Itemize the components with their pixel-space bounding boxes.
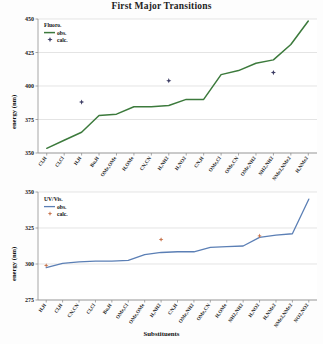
y-tick-label: 275 — [25, 297, 34, 303]
x-tick-label: OMe,CN — [195, 302, 211, 322]
x-tick-label: NO2,NO2 — [292, 302, 310, 324]
x-tick-label: OMe,Cl — [207, 155, 222, 173]
x-tick-label: Cl,Cl — [85, 302, 97, 315]
x-tick-label: Bu,H — [88, 155, 100, 168]
legend-item-calc: calc. — [57, 37, 68, 43]
x-tick-label: Cl,H — [53, 302, 64, 314]
x-tick-label: H,NH2 — [156, 155, 170, 171]
y-tick-label: 375 — [25, 117, 34, 123]
x-tick-label: CN,H — [192, 155, 204, 169]
x-tick-label: OMe,CN — [223, 155, 239, 175]
x-tick-label: H,NMe2 — [294, 155, 310, 174]
x-tick-label: H,H — [72, 155, 82, 166]
x-tick-label: H,OMe — [120, 155, 135, 172]
x-tick-label: OMe,OMe — [127, 302, 146, 325]
y-tick-label: 325 — [25, 225, 34, 231]
legend-item-calc: calc. — [57, 211, 68, 217]
x-tick-label: OMe,NH2 — [239, 155, 257, 177]
legend-title: UV/Vis. — [44, 196, 63, 202]
x-tick-label: H,NMe2 — [261, 302, 277, 321]
x-tick-label: H,OMe — [213, 302, 228, 319]
x-tick-label: NH2,NH2 — [257, 155, 275, 177]
x-tick-label: Bu,H — [101, 302, 113, 315]
y-tick-label: 425 — [25, 50, 34, 56]
chart-panel-fluorescence: energy (nm) 350375400425450Cl,HCl,ClH,HB… — [0, 14, 323, 189]
x-tick-label: OMe,OMe — [99, 155, 118, 178]
x-tick-label: NH2,NH2 — [227, 302, 245, 324]
y-tick-label: 350 — [25, 150, 34, 156]
x-tick-label: OMe,Cl — [114, 302, 129, 320]
y-tick-label: 350 — [25, 189, 34, 195]
y-tick-label: 400 — [25, 83, 34, 89]
page-title: First Major Transitions — [0, 1, 323, 11]
legend-title: Fluoro. — [44, 22, 62, 28]
figure-container: First Major Transitions energy (nm) 3503… — [0, 0, 323, 344]
fluorescence-plot: 350375400425450Cl,HCl,ClH,HBu,HOMe,OMeH,… — [0, 14, 323, 189]
legend-item-obs: obs. — [57, 204, 67, 210]
x-tick-label: H,NO2 — [173, 155, 187, 171]
chart-panel-uvvis: energy (nm) 275300325350H,HCl,HCN,CNCl,C… — [0, 186, 323, 344]
y-tick-label: 450 — [25, 16, 34, 22]
x-tick-label: CN,H — [166, 302, 178, 316]
x-tick-label: H,NO2 — [247, 302, 261, 318]
y-tick-label: 300 — [25, 261, 34, 267]
x-tick-label: CN,CN — [138, 155, 152, 172]
legend-item-obs: obs. — [57, 30, 67, 36]
x-tick-label: H,H — [37, 302, 47, 313]
uvvis-plot: 275300325350H,HCl,HCN,CNCl,ClBu,HOMe,ClO… — [0, 186, 323, 344]
x-tick-label: OMe,NH2 — [177, 302, 195, 324]
x-tick-label: H,NH2 — [148, 302, 162, 318]
x-tick-label: Cl,H — [37, 155, 48, 167]
x-tick-label: CN,CN — [66, 302, 80, 319]
x-axis-title: Substituents — [0, 330, 323, 337]
x-tick-label: Cl,Cl — [53, 155, 65, 168]
